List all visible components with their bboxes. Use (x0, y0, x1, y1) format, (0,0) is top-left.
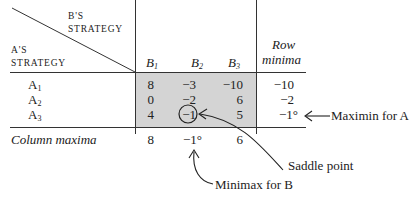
row-min-a1: −10 (262, 77, 294, 93)
row-minima-header-2: minima (262, 52, 301, 68)
row-min-a3: −1° (262, 107, 298, 123)
col-max-b3: 6 (213, 132, 243, 148)
col-max-b1: 8 (140, 132, 154, 148)
row-minima-header-1: Row (272, 37, 295, 53)
maximin-annotation: Maximin for A (331, 108, 409, 124)
cell-a2-b3: 6 (213, 92, 243, 108)
b-strategy-label-1: B'S (68, 11, 84, 21)
cell-a3-b1: 4 (140, 107, 154, 123)
column-header-b3: B3 (228, 55, 240, 71)
cell-a1-b2: −3 (172, 77, 196, 93)
b-strategy-label-2: STRATEGY (68, 24, 123, 34)
cell-a1-b1: 8 (140, 77, 154, 93)
cell-a3-b3: 5 (213, 107, 243, 123)
cell-a1-b3: −10 (213, 77, 243, 93)
row-label-a3: A3 (28, 107, 41, 123)
a-strategy-label-2: STRATEGY (11, 58, 66, 68)
row-min-a2: −2 (262, 92, 294, 108)
column-maxima-label: Column maxima (11, 132, 97, 148)
minimax-annotation: Minimax for B (215, 177, 293, 193)
col-max-b2: −1° (172, 132, 202, 148)
row-label-a2: A2 (28, 92, 41, 108)
saddle-point-annotation: Saddle point (288, 158, 353, 174)
row-label-a1: A1 (28, 77, 41, 93)
cell-a3-b2-saddle-point: −1 (172, 107, 196, 123)
column-header-b2: B2 (191, 55, 203, 71)
column-header-b1: B1 (146, 55, 158, 71)
a-strategy-label-1: A'S (11, 45, 27, 55)
diagram-lines (0, 0, 418, 200)
cell-a2-b2: −2 (172, 92, 196, 108)
cell-a2-b1: 0 (140, 92, 154, 108)
